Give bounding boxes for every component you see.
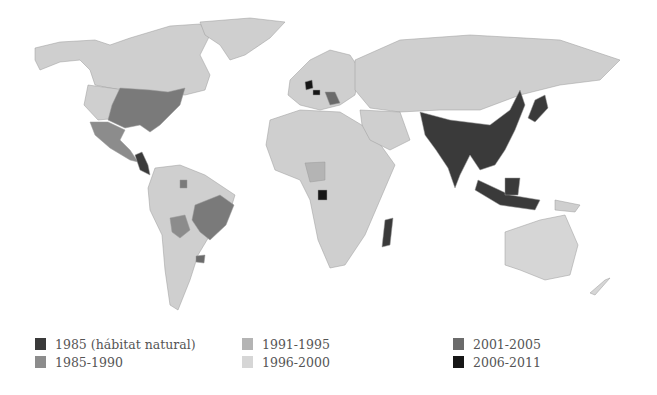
northern-asia <box>355 35 620 112</box>
greenland <box>200 18 285 60</box>
uruguay <box>196 255 205 263</box>
legend-label: 2001-2005 <box>473 337 541 352</box>
legend-item-2006-2011: 2006-2011 <box>453 355 541 369</box>
new-guinea <box>555 200 580 212</box>
legend-swatch <box>453 356 464 368</box>
madagascar <box>382 218 393 247</box>
japan <box>528 95 548 122</box>
legend: 1985 (hábitat natural) 1985-1990 1991-19… <box>0 337 657 377</box>
italy-region <box>313 90 320 95</box>
legend-swatch <box>35 356 46 368</box>
borneo <box>505 178 520 195</box>
legend-swatch <box>35 338 46 350</box>
legend-swatch <box>453 338 464 350</box>
eastern-us <box>108 88 185 132</box>
canada-alaska <box>35 24 210 95</box>
legend-label: 1991-1995 <box>262 337 330 352</box>
france-belgium <box>305 80 313 90</box>
suriname <box>180 180 187 188</box>
legend-item-1985-natural: 1985 (hábitat natural) <box>35 337 196 351</box>
central-america <box>135 152 150 175</box>
europe <box>288 50 360 110</box>
legend-item-1996-2000: 1996-2000 <box>242 355 330 369</box>
legend-label: 2006-2011 <box>473 355 541 370</box>
legend-item-1985-1990: 1985-1990 <box>35 355 123 369</box>
legend-swatch <box>242 356 253 368</box>
legend-item-1991-1995: 1991-1995 <box>242 337 330 351</box>
south-america <box>148 165 235 310</box>
legend-swatch <box>242 338 253 350</box>
legend-label: 1985-1990 <box>55 355 123 370</box>
mexico <box>90 122 138 162</box>
gabon <box>318 190 327 200</box>
new-zealand <box>590 278 610 295</box>
legend-item-2001-2005: 2001-2005 <box>453 337 541 351</box>
legend-label: 1996-2000 <box>262 355 330 370</box>
australia <box>505 215 578 280</box>
world-map <box>0 0 657 325</box>
legend-label: 1985 (hábitat natural) <box>55 337 196 352</box>
